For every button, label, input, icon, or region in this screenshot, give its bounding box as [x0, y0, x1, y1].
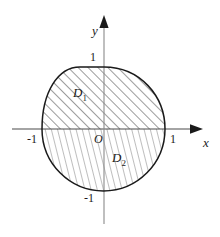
- lower-region-label: D2: [112, 151, 126, 168]
- y-tick-label-1: 1: [90, 51, 96, 63]
- x-tick-label-1: 1: [170, 133, 176, 145]
- upper-region-label-main: D: [73, 85, 82, 100]
- y-axis-label: y: [92, 24, 98, 37]
- math-figure: y x O 1 -1 -1 1 D1 D2: [0, 0, 220, 237]
- x-tick-label-minus-1: -1: [27, 133, 37, 145]
- origin-label: O: [94, 133, 103, 145]
- lower-region-label-sub: 2: [121, 158, 126, 168]
- lower-region-label-main: D: [112, 150, 121, 165]
- upper-region-label-sub: 1: [82, 93, 87, 103]
- x-axis-label: x: [203, 136, 209, 149]
- y-tick-label-minus-1: -1: [84, 192, 94, 204]
- figure-canvas: [0, 0, 220, 237]
- upper-region-label: D1: [73, 86, 87, 103]
